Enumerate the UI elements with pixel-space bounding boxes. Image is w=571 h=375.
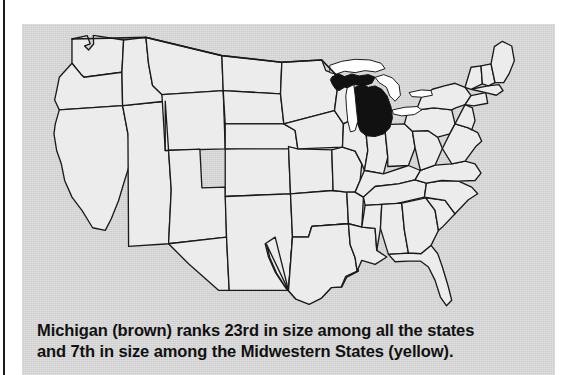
- state-kansas[interactable]: [289, 147, 334, 194]
- state-washington[interactable]: [72, 35, 124, 77]
- lake-superior: [330, 59, 385, 74]
- michigan-locator-figure: Michigan (brown) ranks 23rd in size amon…: [0, 0, 571, 375]
- us-map-container: [22, 24, 555, 309]
- lake-ontario: [409, 90, 432, 97]
- caption-line-1: Michigan (brown) ranks 23rd in size amon…: [37, 320, 542, 341]
- state-wyoming[interactable]: [162, 91, 225, 151]
- united-states-map[interactable]: [22, 24, 555, 309]
- state-arkansas[interactable]: [347, 192, 364, 227]
- state-colorado[interactable]: [225, 147, 290, 197]
- state-nebraska[interactable]: [225, 124, 298, 149]
- state-vermont[interactable]: [465, 66, 482, 89]
- state-maine[interactable]: [491, 41, 514, 82]
- page-gutter-rule: [3, 0, 5, 375]
- figure-panel: Michigan (brown) ranks 23rd in size amon…: [22, 24, 555, 375]
- state-arizona[interactable]: [169, 237, 230, 290]
- state-california[interactable]: [54, 106, 132, 231]
- caption-line-2: and 7th in size among the Midwestern Sta…: [37, 341, 542, 362]
- state-florida[interactable]: [388, 245, 451, 305]
- figure-caption: Michigan (brown) ranks 23rd in size amon…: [37, 320, 542, 362]
- state-south-dakota[interactable]: [223, 91, 284, 124]
